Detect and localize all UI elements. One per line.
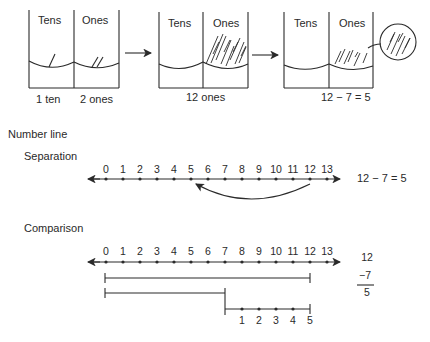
ones-label: Ones bbox=[339, 17, 365, 29]
comparison-label: Comparison bbox=[24, 222, 83, 234]
caption-tens: 1 ten bbox=[36, 93, 60, 105]
pointer-line bbox=[368, 44, 381, 48]
tens-label: Tens bbox=[294, 17, 317, 29]
caption-ones: 2 ones bbox=[80, 93, 113, 105]
caption-equation: 12 − 7 = 5 bbox=[321, 91, 371, 103]
comparison-dots bbox=[104, 260, 328, 310]
separation-number-line bbox=[88, 179, 340, 199]
tens-stick bbox=[49, 54, 55, 67]
ones-label: Ones bbox=[213, 17, 239, 29]
comparison-number-line bbox=[88, 262, 374, 315]
section-heading: Number line bbox=[8, 128, 67, 140]
tens-label: Tens bbox=[168, 17, 191, 29]
subtraction-arc bbox=[196, 184, 310, 199]
caption: 12 ones bbox=[186, 91, 225, 103]
ones-label: Ones bbox=[82, 14, 108, 26]
separation-equation: 12 − 7 = 5 bbox=[357, 172, 407, 184]
separation-label: Separation bbox=[24, 150, 77, 162]
tens-label: Tens bbox=[38, 14, 61, 26]
